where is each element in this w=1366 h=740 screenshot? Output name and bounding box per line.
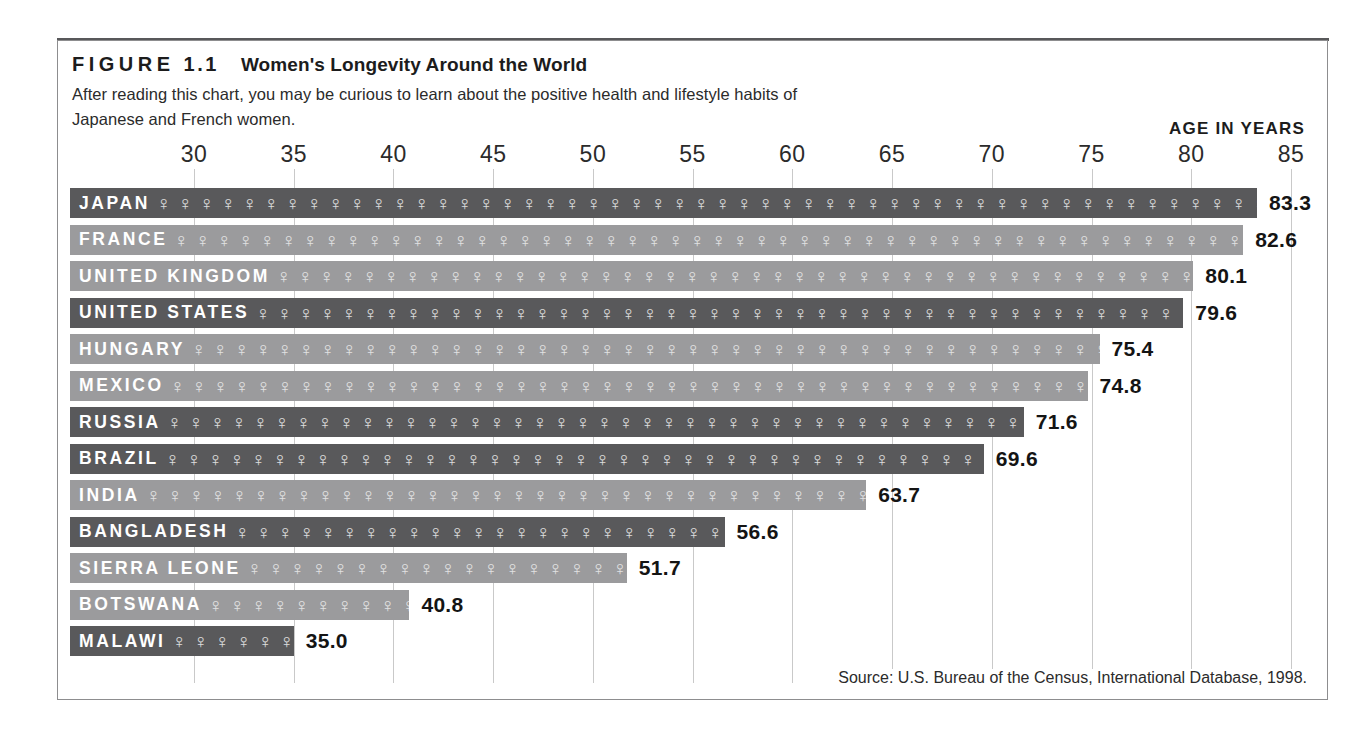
x-axis-tick-label: 35 — [280, 141, 307, 168]
chart-bar-row: HUNGARY♀♀♀♀♀♀♀♀♀♀♀♀♀♀♀♀♀♀♀♀♀♀♀♀♀♀♀♀♀♀♀♀♀… — [70, 334, 1327, 364]
country-label: FRANCE — [70, 229, 174, 250]
chart-bar-row: MEXICO♀♀♀♀♀♀♀♀♀♀♀♀♀♀♀♀♀♀♀♀♀♀♀♀♀♀♀♀♀♀♀♀♀♀… — [70, 371, 1327, 401]
chart-bar-row: JAPAN♀♀♀♀♀♀♀♀♀♀♀♀♀♀♀♀♀♀♀♀♀♀♀♀♀♀♀♀♀♀♀♀♀♀♀… — [70, 188, 1327, 218]
female-symbol-icon-strip: ♀♀♀♀♀♀♀♀♀♀♀♀♀♀♀♀♀♀♀♀♀♀♀♀♀♀♀♀♀♀♀♀♀♀♀♀♀♀♀♀… — [146, 480, 867, 510]
x-axis-tick-label: 55 — [679, 141, 706, 168]
female-symbol-icon-strip: ♀♀♀♀♀♀♀♀♀♀♀♀♀♀♀♀♀♀♀♀♀♀♀♀♀♀♀♀♀♀♀♀♀♀♀♀♀♀♀♀… — [247, 553, 627, 583]
bar-value-label: 75.4 — [1112, 337, 1154, 361]
bar-mexico: MEXICO♀♀♀♀♀♀♀♀♀♀♀♀♀♀♀♀♀♀♀♀♀♀♀♀♀♀♀♀♀♀♀♀♀♀… — [70, 371, 1088, 401]
chart-bar-row: BRAZIL♀♀♀♀♀♀♀♀♀♀♀♀♀♀♀♀♀♀♀♀♀♀♀♀♀♀♀♀♀♀♀♀♀♀… — [70, 444, 1327, 474]
chart-bar-row: FRANCE♀♀♀♀♀♀♀♀♀♀♀♀♀♀♀♀♀♀♀♀♀♀♀♀♀♀♀♀♀♀♀♀♀♀… — [70, 225, 1327, 255]
x-axis-tick-label: 75 — [1078, 141, 1105, 168]
bar-value-label: 56.6 — [737, 520, 779, 544]
chart-bar-row: BANGLADESH♀♀♀♀♀♀♀♀♀♀♀♀♀♀♀♀♀♀♀♀♀♀♀♀♀♀♀♀♀♀… — [70, 517, 1327, 547]
bar-value-label: 63.7 — [878, 483, 920, 507]
female-symbol-icon-strip: ♀♀♀♀♀♀♀♀♀♀♀♀♀♀♀♀♀♀♀♀♀♀♀♀♀♀♀♀♀♀♀♀♀♀♀♀♀♀♀♀… — [172, 626, 294, 656]
country-label: SIERRA LEONE — [70, 558, 247, 579]
chart-bar-row: RUSSIA♀♀♀♀♀♀♀♀♀♀♀♀♀♀♀♀♀♀♀♀♀♀♀♀♀♀♀♀♀♀♀♀♀♀… — [70, 407, 1327, 437]
bar-value-label: 74.8 — [1100, 374, 1142, 398]
bar-bangladesh: BANGLADESH♀♀♀♀♀♀♀♀♀♀♀♀♀♀♀♀♀♀♀♀♀♀♀♀♀♀♀♀♀♀… — [70, 517, 725, 547]
female-symbol-icon-strip: ♀♀♀♀♀♀♀♀♀♀♀♀♀♀♀♀♀♀♀♀♀♀♀♀♀♀♀♀♀♀♀♀♀♀♀♀♀♀♀♀… — [208, 590, 410, 620]
bar-value-label: 82.6 — [1255, 228, 1297, 252]
female-symbol-icon-strip: ♀♀♀♀♀♀♀♀♀♀♀♀♀♀♀♀♀♀♀♀♀♀♀♀♀♀♀♀♀♀♀♀♀♀♀♀♀♀♀♀… — [170, 371, 1088, 401]
bar-botswana: BOTSWANA♀♀♀♀♀♀♀♀♀♀♀♀♀♀♀♀♀♀♀♀♀♀♀♀♀♀♀♀♀♀♀♀… — [70, 590, 409, 620]
bar-value-label: 83.3 — [1269, 191, 1311, 215]
x-axis-tick-label: 85 — [1278, 141, 1305, 168]
country-label: BRAZIL — [70, 448, 165, 469]
country-label: INDIA — [70, 485, 146, 506]
bar-value-label: 71.6 — [1036, 410, 1078, 434]
bar-united-states: UNITED STATES♀♀♀♀♀♀♀♀♀♀♀♀♀♀♀♀♀♀♀♀♀♀♀♀♀♀♀… — [70, 298, 1183, 328]
country-label: BOTSWANA — [70, 594, 208, 615]
x-axis-tick-label: 60 — [779, 141, 806, 168]
female-symbol-icon-strip: ♀♀♀♀♀♀♀♀♀♀♀♀♀♀♀♀♀♀♀♀♀♀♀♀♀♀♀♀♀♀♀♀♀♀♀♀♀♀♀♀… — [174, 225, 1244, 255]
country-label: HUNGARY — [70, 339, 191, 360]
bar-sierra-leone: SIERRA LEONE♀♀♀♀♀♀♀♀♀♀♀♀♀♀♀♀♀♀♀♀♀♀♀♀♀♀♀♀… — [70, 553, 627, 583]
chart-bar-row: SIERRA LEONE♀♀♀♀♀♀♀♀♀♀♀♀♀♀♀♀♀♀♀♀♀♀♀♀♀♀♀♀… — [70, 553, 1327, 583]
bar-russia: RUSSIA♀♀♀♀♀♀♀♀♀♀♀♀♀♀♀♀♀♀♀♀♀♀♀♀♀♀♀♀♀♀♀♀♀♀… — [70, 407, 1024, 437]
country-label: MEXICO — [70, 375, 170, 396]
x-axis-tick-label: 30 — [181, 141, 208, 168]
female-symbol-icon-strip: ♀♀♀♀♀♀♀♀♀♀♀♀♀♀♀♀♀♀♀♀♀♀♀♀♀♀♀♀♀♀♀♀♀♀♀♀♀♀♀♀… — [276, 261, 1193, 291]
x-axis-tick-label: 70 — [979, 141, 1006, 168]
bar-india: INDIA♀♀♀♀♀♀♀♀♀♀♀♀♀♀♀♀♀♀♀♀♀♀♀♀♀♀♀♀♀♀♀♀♀♀♀… — [70, 480, 866, 510]
country-label: UNITED KINGDOM — [70, 266, 276, 287]
country-label: UNITED STATES — [70, 302, 255, 323]
female-symbol-icon-strip: ♀♀♀♀♀♀♀♀♀♀♀♀♀♀♀♀♀♀♀♀♀♀♀♀♀♀♀♀♀♀♀♀♀♀♀♀♀♀♀♀… — [255, 298, 1183, 328]
chart-bar-row: UNITED KINGDOM♀♀♀♀♀♀♀♀♀♀♀♀♀♀♀♀♀♀♀♀♀♀♀♀♀♀… — [70, 261, 1327, 291]
country-label: MALAWI — [70, 631, 172, 652]
bar-malawi: MALAWI♀♀♀♀♀♀♀♀♀♀♀♀♀♀♀♀♀♀♀♀♀♀♀♀♀♀♀♀♀♀♀♀♀♀… — [70, 626, 294, 656]
x-axis-tick-label: 80 — [1178, 141, 1205, 168]
female-symbol-icon-strip: ♀♀♀♀♀♀♀♀♀♀♀♀♀♀♀♀♀♀♀♀♀♀♀♀♀♀♀♀♀♀♀♀♀♀♀♀♀♀♀♀… — [165, 444, 984, 474]
bar-hungary: HUNGARY♀♀♀♀♀♀♀♀♀♀♀♀♀♀♀♀♀♀♀♀♀♀♀♀♀♀♀♀♀♀♀♀♀… — [70, 334, 1100, 364]
female-symbol-icon-strip: ♀♀♀♀♀♀♀♀♀♀♀♀♀♀♀♀♀♀♀♀♀♀♀♀♀♀♀♀♀♀♀♀♀♀♀♀♀♀♀♀… — [156, 188, 1257, 218]
country-label: BANGLADESH — [70, 521, 234, 542]
figure-frame: FIGURE 1.1 Women's Longevity Around the … — [57, 40, 1328, 700]
source-note: Source: U.S. Bureau of the Census, Inter… — [830, 669, 1307, 687]
bar-brazil: BRAZIL♀♀♀♀♀♀♀♀♀♀♀♀♀♀♀♀♀♀♀♀♀♀♀♀♀♀♀♀♀♀♀♀♀♀… — [70, 444, 984, 474]
x-axis-tick-label: 65 — [879, 141, 906, 168]
bar-value-label: 40.8 — [421, 593, 463, 617]
chart-plot-area: 303540455055606570758085JAPAN♀♀♀♀♀♀♀♀♀♀♀… — [58, 41, 1327, 699]
chart-bar-row: BOTSWANA♀♀♀♀♀♀♀♀♀♀♀♀♀♀♀♀♀♀♀♀♀♀♀♀♀♀♀♀♀♀♀♀… — [70, 590, 1327, 620]
chart-bar-row: MALAWI♀♀♀♀♀♀♀♀♀♀♀♀♀♀♀♀♀♀♀♀♀♀♀♀♀♀♀♀♀♀♀♀♀♀… — [70, 626, 1327, 656]
country-label: JAPAN — [70, 193, 156, 214]
bar-value-label: 79.6 — [1195, 301, 1237, 325]
chart-bar-row: UNITED STATES♀♀♀♀♀♀♀♀♀♀♀♀♀♀♀♀♀♀♀♀♀♀♀♀♀♀♀… — [70, 298, 1327, 328]
bar-value-label: 80.1 — [1205, 264, 1247, 288]
bar-value-label: 35.0 — [306, 629, 348, 653]
bar-united-kingdom: UNITED KINGDOM♀♀♀♀♀♀♀♀♀♀♀♀♀♀♀♀♀♀♀♀♀♀♀♀♀♀… — [70, 261, 1193, 291]
bar-france: FRANCE♀♀♀♀♀♀♀♀♀♀♀♀♀♀♀♀♀♀♀♀♀♀♀♀♀♀♀♀♀♀♀♀♀♀… — [70, 225, 1243, 255]
female-symbol-icon-strip: ♀♀♀♀♀♀♀♀♀♀♀♀♀♀♀♀♀♀♀♀♀♀♀♀♀♀♀♀♀♀♀♀♀♀♀♀♀♀♀♀… — [191, 334, 1099, 364]
female-symbol-icon-strip: ♀♀♀♀♀♀♀♀♀♀♀♀♀♀♀♀♀♀♀♀♀♀♀♀♀♀♀♀♀♀♀♀♀♀♀♀♀♀♀♀… — [234, 517, 724, 547]
country-label: RUSSIA — [70, 412, 167, 433]
bar-japan: JAPAN♀♀♀♀♀♀♀♀♀♀♀♀♀♀♀♀♀♀♀♀♀♀♀♀♀♀♀♀♀♀♀♀♀♀♀… — [70, 188, 1257, 218]
x-axis-tick-label: 40 — [380, 141, 407, 168]
x-axis-tick-label: 45 — [480, 141, 507, 168]
chart-bar-row: INDIA♀♀♀♀♀♀♀♀♀♀♀♀♀♀♀♀♀♀♀♀♀♀♀♀♀♀♀♀♀♀♀♀♀♀♀… — [70, 480, 1327, 510]
bar-value-label: 51.7 — [639, 556, 681, 580]
x-axis-tick-label: 50 — [580, 141, 607, 168]
bar-value-label: 69.6 — [996, 447, 1038, 471]
female-symbol-icon-strip: ♀♀♀♀♀♀♀♀♀♀♀♀♀♀♀♀♀♀♀♀♀♀♀♀♀♀♀♀♀♀♀♀♀♀♀♀♀♀♀♀… — [167, 407, 1024, 437]
